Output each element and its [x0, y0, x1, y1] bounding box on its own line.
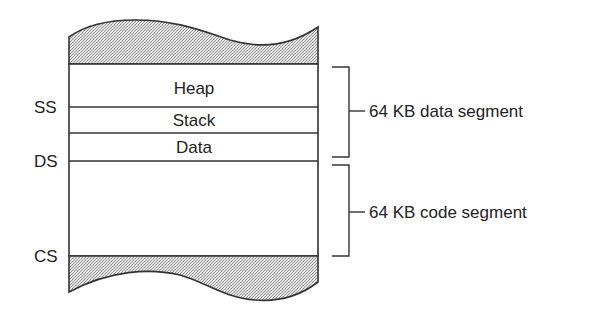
data-segment-label: 64 KB data segment: [369, 103, 523, 120]
code-segment-bracket: [332, 165, 349, 256]
code-segment-label: 64 KB code segment: [369, 204, 527, 221]
region-label-stack: Stack: [173, 112, 216, 129]
register-label-cs: CS: [34, 248, 58, 265]
memory-segment-diagram: [0, 0, 596, 313]
register-label-ss: SS: [34, 99, 57, 116]
top-torn-cap: [69, 20, 318, 64]
region-label-heap: Heap: [174, 80, 215, 97]
register-label-ds: DS: [34, 153, 58, 170]
data-segment-bracket: [332, 67, 349, 157]
bottom-torn-cap: [69, 256, 318, 300]
region-label-data: Data: [176, 139, 212, 156]
